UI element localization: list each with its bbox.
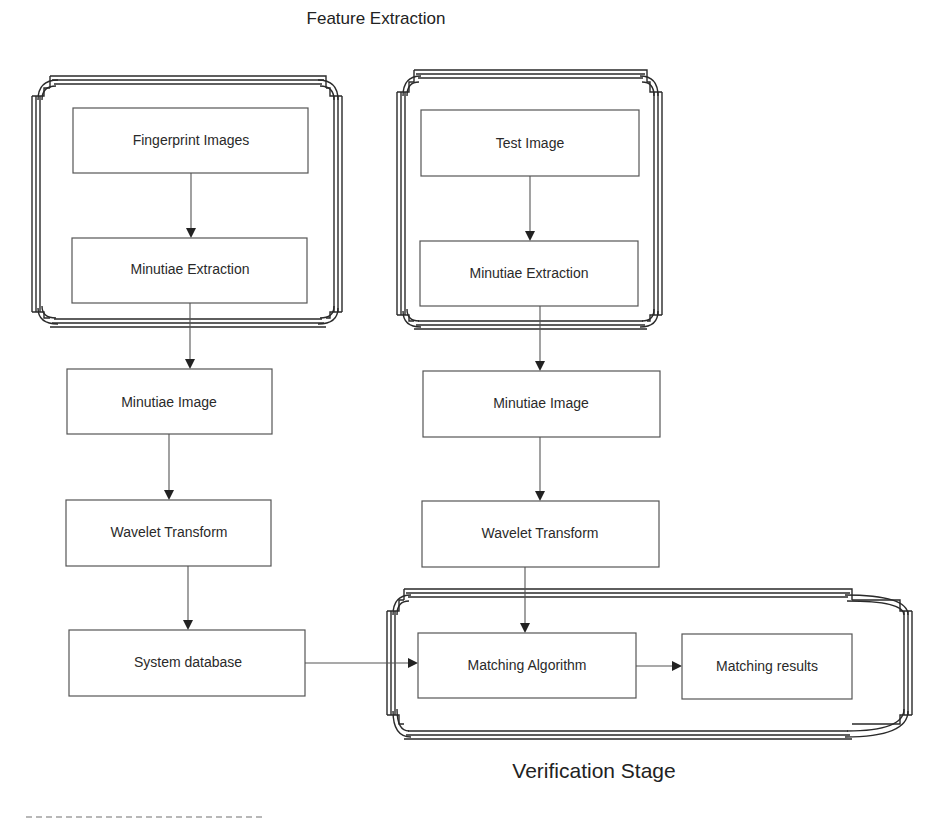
svg-text:Minutiae Extraction: Minutiae Extraction [130, 261, 249, 277]
node-minutiae-image-right: Minutiae Image [423, 371, 660, 437]
svg-text:Minutiae Image: Minutiae Image [493, 395, 589, 411]
arrow-down-icon [535, 361, 545, 371]
svg-text:Minutiae Image: Minutiae Image [121, 394, 217, 410]
node-minutiae-image-left: Minutiae Image [67, 369, 272, 434]
fingerprint-verification-flowchart: Feature Extraction [0, 0, 949, 818]
svg-text:Wavelet Transform: Wavelet Transform [482, 525, 599, 541]
svg-text:Matching results: Matching results [716, 658, 818, 674]
node-wavelet-transform-left: Wavelet Transform [66, 500, 271, 566]
arrow-down-icon [525, 231, 535, 241]
arrow-down-icon [186, 228, 196, 238]
node-wavelet-transform-right: Wavelet Transform [422, 501, 659, 567]
svg-text:Minutiae Extraction: Minutiae Extraction [469, 265, 588, 281]
node-system-database: System database [69, 630, 305, 696]
svg-text:Matching Algorithm: Matching Algorithm [467, 657, 586, 673]
node-minutiae-extraction-right: Minutiae Extraction [420, 241, 638, 306]
svg-text:Test Image: Test Image [496, 135, 565, 151]
svg-text:Fingerprint Images: Fingerprint Images [133, 132, 250, 148]
arrow-down-icon [520, 623, 530, 633]
svg-text:System database: System database [134, 654, 242, 670]
feature-extraction-title: Feature Extraction [307, 9, 446, 28]
node-matching-algorithm: Matching Algorithm [418, 633, 636, 698]
node-test-image: Test Image [421, 110, 639, 176]
arrow-down-icon [164, 490, 174, 500]
arrow-right-icon [408, 658, 418, 668]
svg-text:Wavelet Transform: Wavelet Transform [111, 524, 228, 540]
arrow-down-icon [535, 491, 545, 501]
arrow-right-icon [672, 661, 682, 671]
arrow-down-icon [185, 359, 195, 369]
node-minutiae-extraction-left: Minutiae Extraction [72, 238, 307, 303]
node-fingerprint-images: Fingerprint Images [73, 108, 308, 173]
cropped-figure-caption [26, 812, 266, 818]
arrow-down-icon [183, 620, 193, 630]
verification-stage-title: Verification Stage [512, 759, 675, 782]
node-matching-results: Matching results [682, 634, 852, 699]
